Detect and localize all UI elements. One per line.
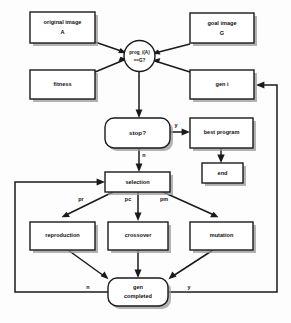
edge-label-stop-no: n <box>142 152 145 158</box>
edge-gen-i-to-test <box>152 58 190 72</box>
edge-goal-image-to-test <box>152 44 190 54</box>
node-mutation[interactable]: mutation <box>190 222 256 253</box>
node-best-program-label: best program <box>204 129 240 135</box>
edge-selection-to-reproduction <box>62 192 114 217</box>
node-original-image[interactable]: original image A <box>30 12 98 46</box>
node-goal-image[interactable]: goal image G <box>190 13 257 46</box>
edge-label-gen-no: n <box>86 284 89 290</box>
node-gen-completed-line2: completed <box>124 293 153 299</box>
edge-reproduction-to-gen-completed <box>68 250 109 279</box>
edge-original-image-to-test <box>95 42 127 53</box>
edge-label-stop-yes: y <box>175 122 178 128</box>
edge-label-gen-yes: y <box>188 284 191 290</box>
node-stop-label: stop? <box>129 129 146 136</box>
edge-gen-completed-yes-to-gen-i <box>168 82 277 292</box>
node-end-label: end <box>218 170 229 176</box>
edge-label-prob-mutation: pm <box>160 196 168 202</box>
node-best-program[interactable]: best program <box>190 118 256 151</box>
node-test-condition-line1: prog_i(A) <box>129 50 150 55</box>
flowchart-canvas: original image A goal image G fitness ge… <box>0 0 291 323</box>
node-gen-i-label: gen i <box>215 81 228 87</box>
node-gen-i[interactable]: gen i <box>190 70 257 102</box>
flowchart-svg: original image A goal image G fitness ge… <box>0 0 291 323</box>
node-goal-image-line2: G <box>220 30 224 36</box>
edge-label-prob-crossover: pc <box>125 196 131 202</box>
node-fitness[interactable]: fitness <box>30 70 98 102</box>
node-original-image-line2: A <box>60 29 64 35</box>
edge-test-to-stop <box>136 71 143 118</box>
node-gen-completed[interactable]: gen completed <box>108 278 171 309</box>
edge-crossover-to-gen-completed <box>135 250 142 278</box>
node-reproduction-label: reproduction <box>45 232 80 238</box>
node-reproduction[interactable]: reproduction <box>30 222 98 253</box>
edge-selection-to-crossover <box>135 192 142 221</box>
node-end[interactable]: end <box>202 163 246 186</box>
node-test-condition[interactable]: prog_i(A) ==G? <box>124 41 155 72</box>
node-original-image-line1: original image <box>44 19 82 25</box>
node-mutation-label: mutation <box>210 232 234 238</box>
node-crossover[interactable]: crossover <box>108 222 171 253</box>
node-selection-label: selection <box>125 179 150 185</box>
node-goal-image-line1: goal image <box>207 20 236 26</box>
edge-selection-to-mutation <box>163 192 219 217</box>
node-stop[interactable]: stop? <box>105 118 173 151</box>
node-test-condition-line2: ==G? <box>134 58 146 63</box>
edge-label-prob-reproduction: pr <box>78 196 84 202</box>
edge-fitness-to-test <box>95 57 127 72</box>
node-selection[interactable]: selection <box>105 172 173 195</box>
node-crossover-label: crossover <box>125 232 153 238</box>
node-gen-completed-line1: gen <box>133 284 144 290</box>
edge-mutation-to-gen-completed <box>169 250 214 279</box>
node-fitness-label: fitness <box>53 81 71 87</box>
